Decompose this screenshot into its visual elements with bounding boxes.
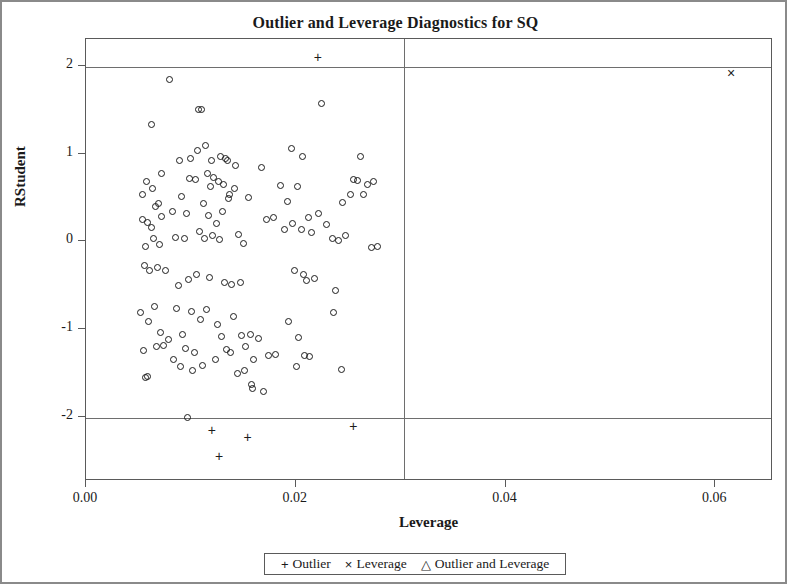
- page-title: Outlier and Leverage Diagnostics for SQ: [2, 14, 787, 32]
- data-point-normal: [298, 226, 305, 233]
- x-tick-mark: [714, 480, 715, 487]
- data-point-normal: [245, 194, 252, 201]
- data-point-normal: [339, 199, 346, 206]
- data-point-x: ×: [724, 66, 738, 80]
- data-point-normal: [144, 373, 151, 380]
- data-point-normal: [342, 232, 349, 239]
- y-tick-label: -2: [61, 407, 73, 423]
- data-point-normal: [374, 243, 381, 250]
- data-point-normal: [169, 208, 176, 215]
- data-point-normal: [162, 267, 169, 274]
- data-point-normal: [197, 316, 204, 323]
- data-point-normal: [194, 147, 201, 154]
- x-axis-label: Leverage: [85, 514, 772, 531]
- data-point-plus: +: [241, 430, 255, 444]
- data-point-normal: [170, 356, 177, 363]
- data-point-normal: [192, 176, 199, 183]
- data-point-normal: [175, 282, 182, 289]
- legend-symbol-icon: +: [281, 558, 289, 571]
- data-point-normal: [241, 367, 248, 374]
- data-point-normal: [219, 208, 226, 215]
- data-point-normal: [191, 349, 198, 356]
- data-point-normal: [293, 363, 300, 370]
- legend-entry: +Outlier: [281, 556, 331, 572]
- data-point-normal: [206, 274, 213, 281]
- data-point-normal: [185, 276, 192, 283]
- data-point-normal: [230, 313, 237, 320]
- y-axis-label: RStudent: [12, 146, 29, 207]
- data-point-normal: [176, 157, 183, 164]
- data-point-normal: [142, 243, 149, 250]
- data-point-normal: [237, 279, 244, 286]
- data-point-normal: [205, 212, 212, 219]
- data-point-normal: [285, 318, 292, 325]
- data-point-normal: [263, 216, 270, 223]
- data-point-normal: [160, 342, 167, 349]
- data-point-normal: [250, 356, 257, 363]
- data-point-normal: [149, 185, 156, 192]
- data-point-normal: [143, 178, 150, 185]
- data-point-normal: [151, 303, 158, 310]
- x-tick-mark: [85, 480, 86, 487]
- data-point-normal: [227, 349, 234, 356]
- data-point-normal: [311, 275, 318, 282]
- data-point-normal: [330, 309, 337, 316]
- data-point-normal: [157, 329, 164, 336]
- data-point-normal: [232, 162, 239, 169]
- data-point-normal: [303, 277, 310, 284]
- data-point-normal: [360, 191, 367, 198]
- data-point-normal: [315, 210, 322, 217]
- y-tick-label: 0: [66, 231, 73, 247]
- data-point-normal: [181, 235, 188, 242]
- x-tick-label: 0.02: [271, 490, 319, 506]
- legend-entry: △Outlier and Leverage: [421, 556, 550, 572]
- legend-symbol-icon: ×: [345, 558, 353, 571]
- data-point-normal: [234, 370, 241, 377]
- data-point-normal: [193, 271, 200, 278]
- data-point-normal: [231, 185, 238, 192]
- data-point-normal: [165, 336, 172, 343]
- data-point-normal: [221, 279, 228, 286]
- data-point-normal: [216, 236, 223, 243]
- data-point-normal: [277, 182, 284, 189]
- data-point-normal: [318, 100, 325, 107]
- y-tick-label: -1: [61, 319, 73, 335]
- data-point-normal: [139, 191, 146, 198]
- data-point-normal: [291, 267, 298, 274]
- y-tick-mark: [78, 328, 85, 329]
- data-point-normal: [260, 388, 267, 395]
- data-point-normal: [323, 221, 330, 228]
- data-point-normal: [238, 332, 245, 339]
- data-point-normal: [200, 200, 207, 207]
- data-point-normal: [201, 235, 208, 242]
- y-tick-mark: [78, 153, 85, 154]
- data-point-normal: [182, 345, 189, 352]
- data-point-plus: +: [212, 449, 226, 463]
- data-point-normal: [189, 367, 196, 374]
- data-point-normal: [247, 331, 254, 338]
- data-point-normal: [183, 210, 190, 217]
- data-point-normal: [347, 191, 354, 198]
- data-point-normal: [284, 198, 291, 205]
- data-point-normal: [357, 153, 364, 160]
- data-point-normal: [225, 195, 232, 202]
- data-point-normal: [203, 306, 210, 313]
- data-point-normal: [173, 305, 180, 312]
- data-point-normal: [207, 183, 214, 190]
- data-point-normal: [354, 177, 361, 184]
- plot-area: +++++×: [85, 38, 772, 480]
- data-point-normal: [137, 309, 144, 316]
- legend-label: Outlier and Leverage: [435, 556, 550, 572]
- data-point-normal: [146, 267, 153, 274]
- data-point-normal: [202, 142, 209, 149]
- x-tick-mark: [505, 480, 506, 487]
- data-point-normal: [235, 231, 242, 238]
- data-point-normal: [265, 352, 272, 359]
- data-point-normal: [150, 235, 157, 242]
- data-point-normal: [255, 335, 262, 342]
- legend-entry: ×Leverage: [345, 556, 407, 572]
- data-point-normal: [172, 234, 179, 241]
- data-point-normal: [184, 414, 191, 421]
- data-point-normal: [220, 181, 227, 188]
- legend-label: Outlier: [293, 556, 331, 572]
